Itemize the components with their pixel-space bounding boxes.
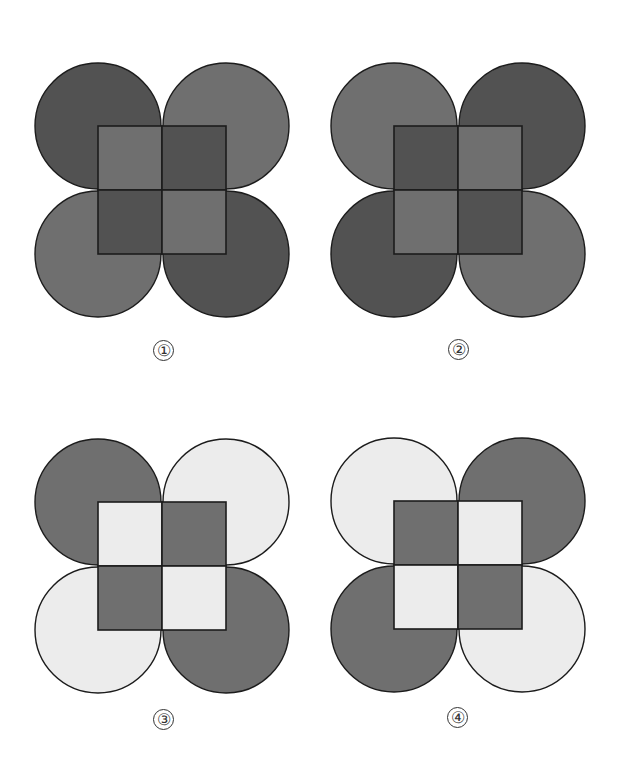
figures-canvas xyxy=(0,0,619,768)
square-quadrant-top-left xyxy=(98,126,162,190)
figure-1 xyxy=(35,63,289,317)
square-quadrant-top-right xyxy=(458,501,522,565)
figure-4 xyxy=(331,438,585,692)
figure-3-label: ③ xyxy=(153,709,174,730)
square-quadrant-top-right xyxy=(162,502,226,566)
square-quadrant-top-left xyxy=(98,502,162,566)
square-quadrant-bottom-left xyxy=(98,566,162,630)
figure-2-label: ② xyxy=(448,339,469,360)
square-quadrant-bottom-right xyxy=(458,190,522,254)
square-quadrant-bottom-left xyxy=(394,190,458,254)
square-quadrant-top-right xyxy=(458,126,522,190)
square-quadrant-bottom-right xyxy=(458,565,522,629)
square-quadrant-bottom-right xyxy=(162,566,226,630)
square-quadrant-bottom-left xyxy=(98,190,162,254)
figure-3 xyxy=(35,439,289,693)
square-quadrant-top-left xyxy=(394,501,458,565)
figure-1-label: ① xyxy=(153,340,174,361)
square-quadrant-bottom-left xyxy=(394,565,458,629)
square-quadrant-top-right xyxy=(162,126,226,190)
figure-4-label: ④ xyxy=(447,707,468,728)
square-quadrant-bottom-right xyxy=(162,190,226,254)
figure-2 xyxy=(331,63,585,317)
square-quadrant-top-left xyxy=(394,126,458,190)
